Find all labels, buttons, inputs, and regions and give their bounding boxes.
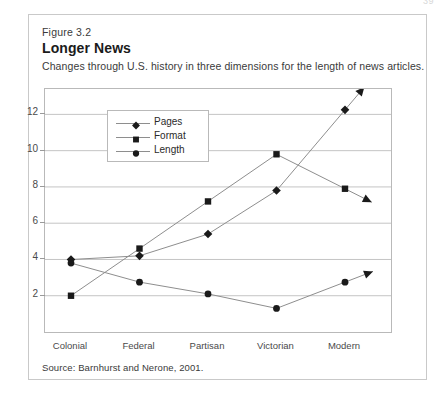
legend-label: Pages (154, 116, 182, 127)
y-tick-label: 8 (16, 179, 38, 190)
plot-area (44, 88, 392, 333)
legend-item-pages: Pages (114, 117, 206, 130)
series-line-length (71, 263, 345, 308)
data-point-format-2 (205, 198, 211, 204)
y-tick-label: 10 (16, 143, 38, 154)
legend-item-length: Length (114, 145, 206, 158)
legend-marker-circle (129, 147, 143, 160)
x-tick-label-victorian: Victorian (241, 340, 311, 351)
y-tick-label: 2 (16, 288, 38, 299)
page-number: 39 (423, 0, 434, 6)
y-tick-label: 6 (16, 215, 38, 226)
legend-marker-glyph (133, 150, 139, 156)
data-point-pages-2 (204, 230, 213, 239)
chart-svg (45, 89, 391, 332)
x-tick-label-federal: Federal (104, 340, 174, 351)
y-tick-mark (40, 258, 45, 259)
data-point-length-3 (273, 305, 280, 312)
figure-label: Figure 3.2 (42, 26, 91, 38)
y-tick-label: 12 (16, 106, 38, 117)
data-point-length-1 (136, 279, 143, 286)
legend-label: Length (154, 144, 185, 155)
legend-marker-glyph (132, 122, 140, 130)
y-tick-mark (40, 222, 45, 223)
figure-source: Source: Barnhurst and Nerone, 2001. (42, 362, 203, 373)
data-point-format-1 (136, 245, 142, 251)
legend-label: Format (154, 130, 186, 141)
figure-title: Longer News (42, 40, 131, 56)
y-tick-mark (40, 295, 45, 296)
chart-legend: PagesFormatLength (107, 110, 209, 162)
x-tick-label-colonial: Colonial (35, 340, 105, 351)
figure-subtitle: Changes through U.S. history in three di… (42, 60, 424, 72)
data-point-format-3 (273, 151, 279, 157)
data-point-pages-1 (135, 252, 144, 261)
y-tick-label: 4 (16, 251, 38, 262)
y-tick-mark (40, 113, 45, 114)
data-point-format-4 (342, 186, 348, 192)
data-point-length-2 (205, 291, 212, 298)
data-point-length-4 (342, 279, 349, 286)
legend-item-format: Format (114, 131, 206, 144)
x-tick-label-partisan: Partisan (172, 340, 242, 351)
y-tick-mark (40, 186, 45, 187)
legend-marker-glyph (133, 137, 139, 143)
data-point-format-0 (68, 293, 74, 299)
data-point-length-0 (68, 260, 75, 267)
x-tick-label-modern: Modern (309, 340, 379, 351)
y-tick-mark (40, 150, 45, 151)
